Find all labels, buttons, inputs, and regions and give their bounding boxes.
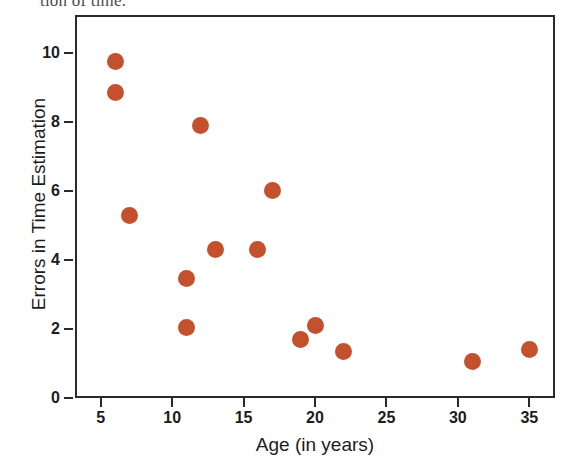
- data-point: [107, 53, 124, 70]
- data-point: [192, 117, 209, 134]
- plot-data-area: [75, 15, 555, 398]
- x-axis-tick-label: 5: [81, 410, 121, 426]
- x-axis-tick: [314, 398, 316, 407]
- data-point: [521, 341, 538, 358]
- y-axis-tick: [64, 259, 73, 261]
- y-axis-title-wrapper: Errors in Time Estimation: [29, 4, 53, 404]
- x-axis-tick-label: 10: [152, 410, 192, 426]
- x-axis-tick-label: 15: [224, 410, 264, 426]
- x-axis-tick: [457, 398, 459, 407]
- x-axis-tick: [385, 398, 387, 407]
- data-point: [464, 353, 481, 370]
- data-point: [207, 241, 224, 258]
- data-point: [178, 319, 195, 336]
- x-axis-tick: [171, 398, 173, 407]
- y-axis-tick: [64, 397, 73, 399]
- data-point: [335, 343, 352, 360]
- y-axis-tick: [64, 121, 73, 123]
- data-point: [178, 270, 195, 287]
- y-axis-tick: [64, 328, 73, 330]
- data-point: [121, 207, 138, 224]
- x-axis-title: Age (in years): [75, 435, 555, 454]
- scatter-plot-figure: tion of time. 0246810 5101520253035 Age …: [0, 0, 567, 469]
- x-axis-tick-label: 25: [366, 410, 406, 426]
- data-point: [264, 182, 281, 199]
- x-axis-tick-label: 35: [509, 410, 549, 426]
- data-point: [292, 331, 309, 348]
- data-point: [249, 241, 266, 258]
- x-axis-tick: [100, 398, 102, 407]
- y-axis-tick: [64, 190, 73, 192]
- x-axis-tick-label: 30: [438, 410, 478, 426]
- x-axis-tick: [243, 398, 245, 407]
- data-point: [107, 84, 124, 101]
- x-axis-tick-label: 20: [295, 410, 335, 426]
- y-axis-tick: [64, 52, 73, 54]
- y-axis-title: Errors in Time Estimation: [29, 4, 48, 404]
- x-axis-tick: [528, 398, 530, 407]
- data-point: [307, 317, 324, 334]
